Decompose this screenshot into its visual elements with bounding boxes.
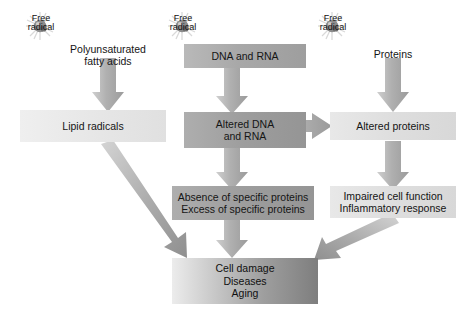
arrow-impaired-cell-to-outcome [314, 213, 399, 260]
arrow-altered-dna-to-specific-proteins [216, 147, 248, 190]
node-polyunsaturated-fatty-acids: Polyunsaturated fatty acids [56, 40, 160, 70]
node-proteins: Proteins [356, 44, 430, 64]
free-radical-label: Free radical [306, 14, 360, 33]
node-altered-proteins: Altered proteins [330, 112, 456, 140]
node-label: Impaired cell function Inflammatory resp… [340, 190, 447, 215]
diagram-canvas: Free radical Free radical [0, 0, 466, 318]
node-label: Proteins [374, 48, 413, 60]
node-label: Altered DNA and RNA [216, 118, 274, 143]
free-radical-icon-lipid: Free radical [14, 8, 68, 44]
node-label: Polyunsaturated fatty acids [70, 43, 146, 68]
node-label: Lipid radicals [62, 120, 123, 132]
arrow-proteins-to-altered-proteins [377, 58, 409, 112]
free-radical-label: Free radical [14, 14, 68, 33]
node-lipid-radicals: Lipid radicals [20, 110, 166, 142]
arrow-specific-proteins-to-outcome [216, 220, 248, 258]
arrow-altered-proteins-to-impaired-cell [377, 141, 409, 190]
free-radical-label: Free radical [156, 14, 210, 33]
node-label: Altered proteins [356, 120, 430, 132]
node-label: Absence of specific proteins Excess of s… [178, 191, 309, 216]
node-label: Cell damage Diseases Aging [216, 262, 275, 299]
node-altered-dna-and-rna: Altered DNA and RNA [184, 112, 306, 148]
free-radical-icon-protein: Free radical [306, 8, 360, 44]
node-label: DNA and RNA [211, 50, 278, 62]
node-impaired-cell-function: Impaired cell function Inflammatory resp… [330, 186, 456, 218]
arrow-dna-to-altered-dna [216, 66, 248, 114]
node-outcome: Cell damage Diseases Aging [172, 258, 318, 304]
node-dna-and-rna: DNA and RNA [184, 44, 306, 68]
free-radical-icon-nucleic: Free radical [156, 8, 210, 44]
node-specific-proteins: Absence of specific proteins Excess of s… [172, 186, 314, 220]
